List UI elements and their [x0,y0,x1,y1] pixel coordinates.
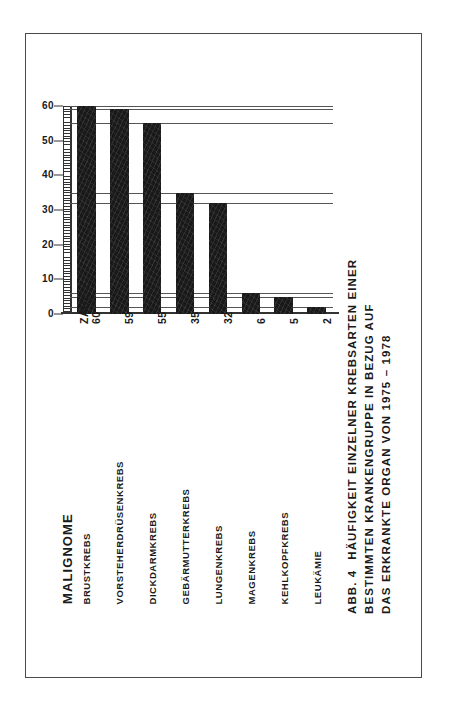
category-label: GEBÄRMUTTERKREBS [181,488,191,604]
bar-value-label: 60 [91,311,102,324]
y-tick-label: 60 [42,101,54,111]
bar-value-label: 5 [289,318,300,324]
bar [176,193,194,314]
bar [110,109,128,314]
caption-figure-number: ABB. 4 [346,570,358,614]
y-tick-label: 40 [42,170,54,180]
caption-text-line-1: HÄUFIGKEIT EINZELNER KREBSARTEN EINER [346,259,358,560]
category-label: MAGENKREBS [246,530,256,604]
bar [209,203,227,314]
bar-value-label: 32 [223,311,234,324]
caption-line-3: DAS ERKRANKTE ORGAN VON 1975 – 1978 [378,94,395,614]
y-tick-label: 30 [42,205,54,215]
y-tick-label: 10 [42,274,54,284]
category-label-column: MALIGNOME BRUSTKREBSVORSTEHERDRÜSENKREBS… [63,334,363,604]
y-tick-mark [54,210,63,211]
bar-value-label: 55 [157,311,168,324]
y-axis-line [70,106,71,314]
category-label: VORSTEHERDRÜSENKREBS [115,461,125,605]
y-tick-mark [54,314,63,315]
bar [143,123,161,314]
category-label: KEHLKOPFKREBS [279,511,289,604]
y-tick-mark [54,140,63,141]
bar [307,307,325,314]
bar-chart-plot-area: 0102030405060 [63,106,333,314]
bar-value-label: 6 [256,318,267,324]
value-header-label: ZAHL [79,294,90,324]
bar [77,106,95,314]
category-label: DICKDARMKREBS [148,512,158,604]
figure-frame: 0102030405060 ZAHL 6059553532652 MALIGNO… [25,33,422,678]
y-tick-label: 50 [42,136,54,146]
category-label: LUNGENKREBS [213,525,223,604]
y-tick-mark [54,175,63,176]
bar [274,297,292,314]
bar-value-label: 35 [190,311,201,324]
y-tick-mark [54,106,63,107]
bar-value-label: 59 [124,311,135,324]
category-label: BRUSTKREBS [82,533,92,604]
y-tick-label: 0 [48,309,54,319]
figure-caption: ABB. 4HÄUFIGKEIT EINZELNER KREBSARTEN EI… [344,94,395,614]
bar [242,293,260,314]
caption-line-1: ABB. 4HÄUFIGKEIT EINZELNER KREBSARTEN EI… [344,94,361,614]
category-label: LEUKÄMIE [312,550,322,604]
value-gridline [70,106,333,107]
y-tick-label: 20 [42,240,54,250]
y-tick-mark [54,244,63,245]
y-tick-mark [54,279,63,280]
caption-line-2: BESTIMMTEN KRANKENGRUPPE IN BEZUG AUF [361,94,378,614]
category-header-label: MALIGNOME [61,513,74,604]
bar-value-label: 2 [322,318,333,324]
